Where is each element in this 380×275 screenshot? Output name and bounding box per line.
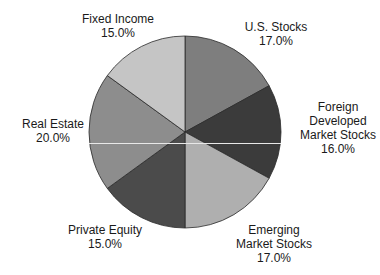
label-foreign-developed: Foreign Developed Market Stocks 16.0% [296,100,380,156]
label-text: Emerging [224,223,324,237]
label-real-estate: Real Estate 20.0% [8,117,98,145]
label-emerging-market: Emerging Market Stocks 17.0% [224,223,324,265]
label-percent: 16.0% [296,142,380,156]
label-percent: 15.0% [68,26,168,40]
label-percent: 17.0% [236,34,316,48]
label-text: Developed [296,114,380,128]
label-text: Market Stocks [224,237,324,251]
label-private-equity: Private Equity 15.0% [55,223,155,251]
label-us-stocks: U.S. Stocks 17.0% [236,20,316,48]
label-text: Private Equity [55,223,155,237]
label-percent: 15.0% [55,237,155,251]
label-text: Fixed Income [68,12,168,26]
label-text: Market Stocks [296,128,380,142]
label-text: Real Estate [8,117,98,131]
label-text: Foreign [296,100,380,114]
label-fixed-income: Fixed Income 15.0% [68,12,168,40]
label-text: U.S. Stocks [236,20,316,34]
label-percent: 20.0% [8,131,98,145]
label-percent: 17.0% [224,251,324,265]
